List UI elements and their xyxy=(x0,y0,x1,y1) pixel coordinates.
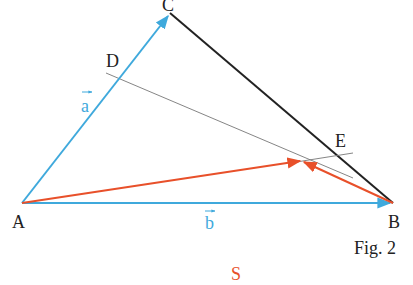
figure-caption: Fig. 2 xyxy=(354,238,396,258)
label-point-d: D xyxy=(106,51,119,71)
label-point-b: B xyxy=(388,212,400,232)
label-vector-b: b xyxy=(205,211,215,233)
vector-ap-arrow xyxy=(22,161,300,203)
line-d-through-p xyxy=(106,73,353,178)
svg-text:b: b xyxy=(205,213,214,233)
label-point-e: E xyxy=(335,131,346,151)
label-point-c: C xyxy=(162,0,174,15)
vector-a-arrow xyxy=(22,16,168,203)
svg-text:a: a xyxy=(81,96,89,116)
label-point-a: A xyxy=(12,212,25,232)
triangle-vector-diagram: A B C D E a b Fig. 2 S xyxy=(0,0,413,285)
side-cb xyxy=(170,13,393,203)
vector-bp-arrow xyxy=(304,162,393,203)
footer-label-s: S xyxy=(231,264,241,284)
label-vector-a: a xyxy=(81,92,92,116)
